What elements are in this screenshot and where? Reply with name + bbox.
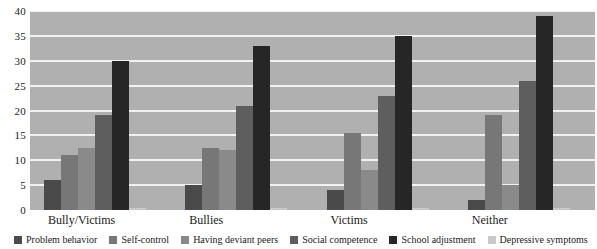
bar: [44, 180, 61, 210]
y-axis: 4035302520151050: [0, 0, 30, 222]
bar: [412, 208, 429, 210]
bar: [485, 115, 502, 210]
x-axis-label: Bully/Victims: [30, 212, 171, 230]
y-axis-tick-label: 20: [15, 105, 26, 116]
y-axis-tick-label: 5: [20, 180, 26, 191]
bar: [78, 148, 95, 210]
y-axis-tick-label: 40: [15, 6, 26, 17]
bar: [327, 190, 344, 210]
bar: [553, 208, 570, 210]
bar: [536, 16, 553, 210]
x-axis-label: Bullies: [171, 212, 312, 230]
legend-swatch-icon: [109, 236, 117, 244]
x-axis-label: Neither: [454, 212, 595, 230]
plot-area: [30, 11, 595, 210]
y-axis-tick-label: 15: [15, 130, 26, 141]
bar: [395, 36, 412, 210]
bar-group: [30, 11, 171, 210]
legend-item[interactable]: Social competence: [290, 235, 377, 245]
bar: [129, 208, 146, 210]
legend-item[interactable]: Problem behavior: [14, 235, 97, 245]
legend-label: Having deviant peers: [193, 235, 278, 245]
bar: [519, 81, 536, 210]
y-axis-tick-label: 0: [20, 205, 26, 216]
legend-swatch-icon: [389, 236, 397, 244]
legend-swatch-icon: [488, 236, 496, 244]
x-axis-category-labels: Bully/VictimsBulliesVictimsNeither: [30, 212, 595, 230]
legend-swatch-icon: [14, 236, 22, 244]
bar-chart: 4035302520151050 Bully/VictimsBulliesVic…: [0, 0, 597, 249]
legend-item[interactable]: Self-control: [109, 235, 169, 245]
chart-legend: Problem behaviorSelf-controlHaving devia…: [14, 232, 594, 248]
bar: [253, 46, 270, 210]
bar: [185, 185, 202, 210]
bar: [202, 148, 219, 210]
bar: [112, 61, 129, 210]
legend-label: Depressive symptoms: [500, 235, 588, 245]
bar: [361, 170, 378, 210]
bar: [219, 150, 236, 210]
legend-item[interactable]: School adjustment: [389, 235, 475, 245]
legend-swatch-icon: [181, 236, 189, 244]
bar-group: [454, 11, 595, 210]
legend-label: Self-control: [121, 235, 169, 245]
y-axis-tick-label: 30: [15, 55, 26, 66]
legend-swatch-icon: [290, 236, 298, 244]
bar-group: [313, 11, 454, 210]
bar-group: [171, 11, 312, 210]
bar: [502, 185, 519, 210]
bar: [95, 115, 112, 210]
bar: [468, 200, 485, 210]
y-axis-tick-label: 10: [15, 155, 26, 166]
y-axis-tick-label: 35: [15, 30, 26, 41]
legend-item[interactable]: Depressive symptoms: [488, 235, 588, 245]
y-axis-tick-label: 25: [15, 80, 26, 91]
bar: [236, 106, 253, 210]
bar: [378, 96, 395, 210]
bar: [344, 133, 361, 210]
legend-label: Social competence: [302, 235, 377, 245]
bar: [270, 208, 287, 210]
x-axis-label: Victims: [313, 212, 454, 230]
legend-item[interactable]: Having deviant peers: [181, 235, 278, 245]
bar: [61, 155, 78, 210]
legend-label: School adjustment: [401, 235, 475, 245]
bar-groups: [30, 11, 595, 210]
legend-label: Problem behavior: [26, 235, 97, 245]
